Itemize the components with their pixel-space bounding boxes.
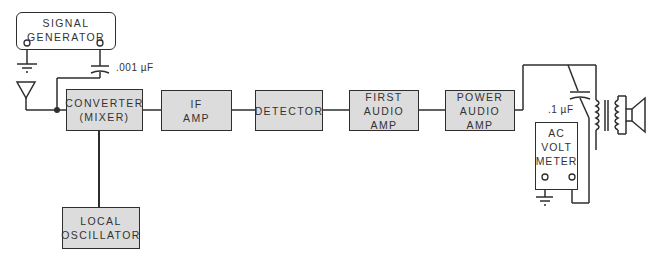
block-label: SIGNAL [43, 16, 90, 30]
block-label: AMP [467, 118, 494, 132]
block-label: AUDIO [364, 104, 404, 118]
junction-dot [54, 107, 60, 113]
speaker-icon [626, 98, 645, 132]
antenna-icon [17, 82, 35, 110]
transformer-icon [596, 65, 626, 150]
power-audio-amp-block: POWER AUDIO AMP [445, 90, 515, 131]
block-label: IF [190, 97, 202, 111]
capacitor-01uf-label: .1 µF [548, 104, 574, 115]
capacitor-001uf-icon [91, 66, 109, 73]
signal-generator-block: SIGNAL GENERATOR [16, 12, 116, 50]
block-label: VOLT [541, 140, 572, 154]
block-label: METER [536, 154, 578, 168]
converter-mixer-block: CONVERTER (MIXER) [66, 89, 143, 131]
block-label: POWER [457, 90, 504, 104]
block-label: LOCAL [80, 214, 121, 228]
if-amp-block: IF AMP [161, 90, 232, 131]
block-label: DETECTOR [255, 104, 324, 118]
block-label: CONVERTER [65, 96, 143, 110]
block-label: OSCILLATOR [61, 228, 141, 242]
ac-volt-meter-block: AC VOLT METER [535, 122, 578, 190]
capacitor-001uf-label: .001 µF [116, 62, 154, 73]
block-label: AMP [183, 111, 210, 125]
block-label: (MIXER) [79, 110, 129, 124]
block-label: GENERATOR [27, 30, 105, 44]
local-oscillator-block: LOCAL OSCILLATOR [62, 207, 140, 249]
detector-block: DETECTOR [255, 90, 323, 131]
block-label: AMP [371, 118, 398, 132]
block-label: AUDIO [460, 104, 500, 118]
first-audio-amp-block: FIRST AUDIO AMP [349, 90, 419, 131]
block-label: AC [548, 126, 565, 140]
block-label: FIRST [365, 90, 402, 104]
